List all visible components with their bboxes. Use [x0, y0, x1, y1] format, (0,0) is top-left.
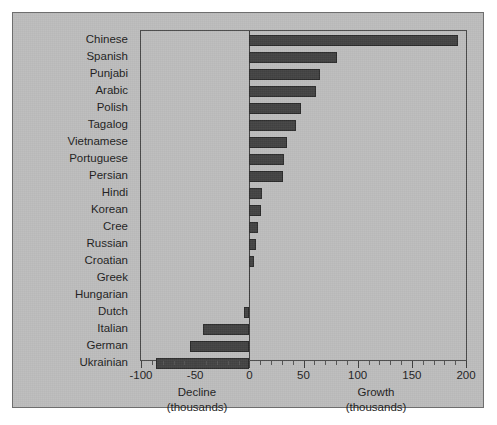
axis-tick-label: -100 [129, 369, 152, 381]
category-label: Greek [13, 269, 135, 286]
axis-tick-label: -50 [187, 369, 204, 381]
axis-tick-label: 100 [348, 369, 367, 381]
axis-tick-minor [163, 361, 164, 365]
bar-row [141, 304, 466, 321]
category-label: Croatian [13, 252, 135, 269]
axis-tick-minor [434, 361, 435, 365]
axis-tick-minor [369, 361, 370, 365]
bar-cree [249, 222, 258, 233]
bar-row [141, 134, 466, 151]
axis-tick-minor [206, 361, 207, 365]
category-label: Russian [13, 235, 135, 252]
category-label: Hindi [13, 184, 135, 201]
growth-axis-caption: Growth (thousands) [311, 385, 441, 415]
category-label: Punjabi [13, 65, 135, 82]
growth-caption-name: Growth [357, 386, 394, 398]
axis-tick-major [249, 361, 250, 368]
growth-caption-unit: (thousands) [311, 400, 441, 415]
axis-tick-minor [401, 361, 402, 365]
bar-row [141, 287, 466, 304]
axis-tick-minor [336, 361, 337, 365]
bar-row [141, 100, 466, 117]
category-label: Persian [13, 167, 135, 184]
axis-tick-label: 200 [456, 369, 475, 381]
axis-tick-minor [282, 361, 283, 365]
category-label: Ukrainian [13, 354, 135, 371]
axis-tick-minor [174, 361, 175, 365]
bar-croatian [249, 256, 253, 267]
bar-row [141, 202, 466, 219]
axis-tick-minor [423, 361, 424, 365]
axis-tick-minor [228, 361, 229, 365]
bar-punjabi [249, 69, 319, 80]
category-label: Tagalog [13, 116, 135, 133]
bar-korean [249, 205, 261, 216]
bar-chinese [249, 35, 458, 46]
bar-row [141, 66, 466, 83]
bar-spanish [249, 52, 337, 63]
bar-vietnamese [249, 137, 287, 148]
axis-tick-minor [444, 361, 445, 365]
bar-portuguese [249, 154, 284, 165]
axis-tick-major [141, 361, 142, 368]
axis-tick-major [304, 361, 305, 368]
bar-row [141, 185, 466, 202]
bar-row [141, 219, 466, 236]
bar-row [141, 236, 466, 253]
figure-panel: ChineseSpanishPunjabiArabicPolishTagalog… [12, 12, 484, 408]
axis-tick-minor [217, 361, 218, 365]
category-label: Chinese [13, 31, 135, 48]
bar-row [141, 253, 466, 270]
decline-caption-name: Decline [178, 386, 216, 398]
axis-tick-label: 150 [402, 369, 421, 381]
category-label: Dutch [13, 303, 135, 320]
axis-tick-major [412, 361, 413, 368]
axis-tick-minor [314, 361, 315, 365]
category-label: Portuguese [13, 150, 135, 167]
bar-row [141, 168, 466, 185]
value-axis-ticks [140, 361, 467, 369]
bar-row [141, 32, 466, 49]
category-label: German [13, 337, 135, 354]
plot-area [140, 30, 467, 361]
axis-tick-minor [152, 361, 153, 365]
category-label: Italian [13, 320, 135, 337]
bar-german [190, 341, 250, 352]
category-label: Hungarian [13, 286, 135, 303]
bar-tagalog [249, 120, 296, 131]
category-label: Arabic [13, 82, 135, 99]
axis-tick-major [358, 361, 359, 368]
bar-polish [249, 103, 301, 114]
bar-row [141, 49, 466, 66]
bar-russian [249, 239, 256, 250]
bar-chart: ChineseSpanishPunjabiArabicPolishTagalog… [13, 13, 483, 407]
axis-tick-minor [184, 361, 185, 365]
bar-italian [203, 324, 250, 335]
bar-row [141, 321, 466, 338]
axis-tick-minor [271, 361, 272, 365]
axis-tick-major [195, 361, 196, 368]
bar-row [141, 83, 466, 100]
axis-tick-minor [347, 361, 348, 365]
bar-persian [249, 171, 283, 182]
bar-row [141, 270, 466, 287]
axis-tick-minor [239, 361, 240, 365]
value-axis-tick-labels: -100-50050100150200 [140, 369, 467, 385]
axis-tick-label: 0 [246, 369, 252, 381]
bar-dutch [244, 307, 249, 318]
axis-tick-minor [260, 361, 261, 365]
decline-axis-caption: Decline (thousands) [132, 385, 262, 415]
category-axis-labels: ChineseSpanishPunjabiArabicPolishTagalog… [13, 31, 135, 371]
decline-caption-unit: (thousands) [132, 400, 262, 415]
category-label: Polish [13, 99, 135, 116]
plot-inner [141, 31, 466, 360]
axis-tick-minor [293, 361, 294, 365]
category-label: Cree [13, 218, 135, 235]
category-label: Korean [13, 201, 135, 218]
category-label: Spanish [13, 48, 135, 65]
axis-tick-minor [379, 361, 380, 365]
axis-tick-major [466, 361, 467, 368]
axis-tick-minor [455, 361, 456, 365]
bar-hindi [249, 188, 262, 199]
bar-row [141, 117, 466, 134]
